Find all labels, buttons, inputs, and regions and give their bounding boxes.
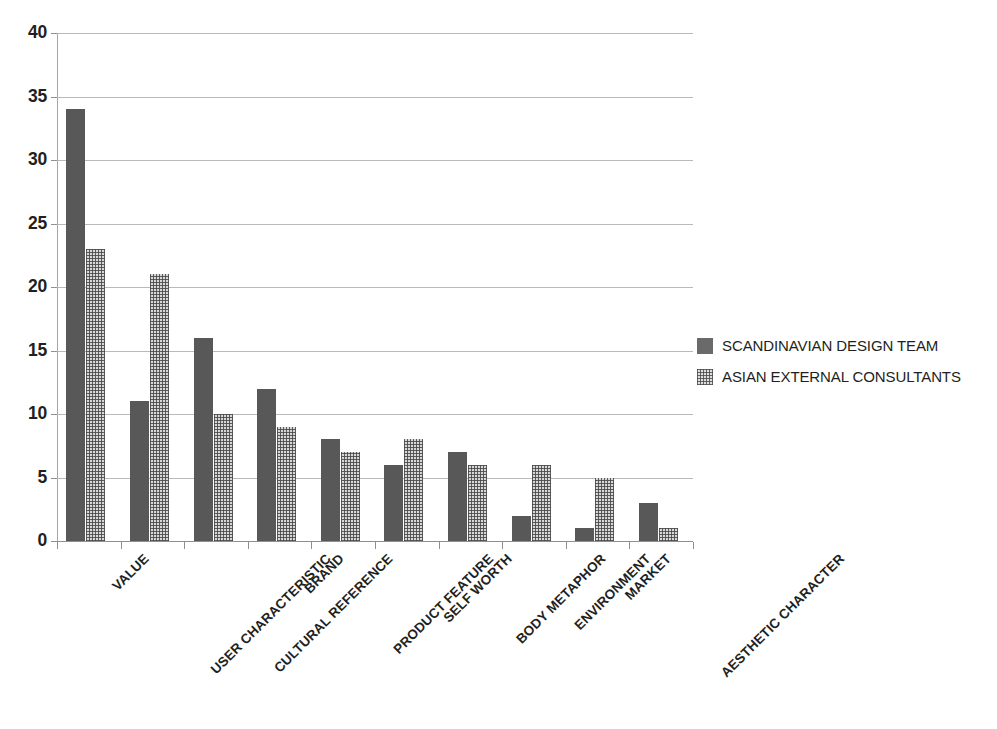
x-tick [693, 542, 694, 549]
bar [659, 528, 678, 541]
x-tick [121, 542, 122, 549]
legend-label-scandinavian-design-team: SCANDINAVIAN DESIGN TEAM [722, 337, 938, 354]
bar [532, 465, 551, 541]
y-axis-tick-label: 20 [7, 276, 47, 297]
bar [575, 528, 594, 541]
x-tick [629, 542, 630, 549]
y-tick-25 [51, 224, 57, 225]
bar [384, 465, 403, 541]
bar [194, 338, 213, 541]
y-axis-tick-label: 35 [7, 86, 47, 107]
chart-legend: SCANDINAVIAN DESIGN TEAM ASIAN EXTERNAL … [697, 330, 997, 392]
bar [214, 414, 233, 541]
y-tick-35 [51, 97, 57, 98]
x-tick [502, 542, 503, 549]
gridline-30 [57, 160, 693, 161]
gridline-40 [57, 33, 693, 34]
y-axis-tick-label: 5 [7, 467, 47, 488]
y-tick-5 [51, 478, 57, 479]
bar [257, 389, 276, 541]
bar [448, 452, 467, 541]
x-axis-category-label: AESTHETIC CHARACTER [718, 551, 847, 680]
x-tick [184, 542, 185, 549]
y-axis-tick-label: 10 [7, 403, 47, 424]
y-tick-30 [51, 160, 57, 161]
y-axis-tick-label: 25 [7, 213, 47, 234]
bar [468, 465, 487, 541]
bar [130, 401, 149, 541]
legend-swatch-scandinavian-design-team [697, 338, 713, 354]
x-tick [566, 542, 567, 549]
bar [595, 478, 614, 542]
legend-swatch-asian-external-consultants [697, 369, 713, 385]
bar [639, 503, 658, 541]
legend-label-asian-external-consultants: ASIAN EXTERNAL CONSULTANTS [722, 368, 961, 385]
bar [150, 274, 169, 541]
bar [86, 249, 105, 541]
bar-chart: 0510152025303540 SCANDINAVIAN DESIGN TEA… [0, 0, 997, 729]
y-tick-20 [51, 287, 57, 288]
bar [321, 439, 340, 541]
y-tick-10 [51, 414, 57, 415]
gridline-35 [57, 97, 693, 98]
legend-item-series-b: ASIAN EXTERNAL CONSULTANTS [697, 361, 997, 392]
plot-area [57, 33, 693, 541]
x-tick [248, 542, 249, 549]
legend-item-series-a: SCANDINAVIAN DESIGN TEAM [697, 330, 997, 361]
bar [512, 516, 531, 541]
gridline-25 [57, 224, 693, 225]
y-tick-40 [51, 33, 57, 34]
x-tick [375, 542, 376, 549]
y-axis-tick-label: 40 [7, 22, 47, 43]
x-axis-category-label: PRODUCT FEATURE [390, 551, 496, 657]
bar [341, 452, 360, 541]
x-tick [311, 542, 312, 549]
bar [404, 439, 423, 541]
y-axis-tick-label: 30 [7, 149, 47, 170]
y-axis-labels: 0510152025303540 [0, 0, 47, 729]
bar [66, 109, 85, 541]
y-axis-tick-label: 0 [7, 530, 47, 551]
x-tick [439, 542, 440, 549]
x-axis-category-label: VALUE [110, 551, 153, 594]
x-axis-category-label: USER CHARACTERISTIC [208, 551, 334, 677]
y-axis-tick-label: 15 [7, 340, 47, 361]
y-tick-15 [51, 351, 57, 352]
bar [277, 427, 296, 541]
x-tick [57, 542, 58, 549]
